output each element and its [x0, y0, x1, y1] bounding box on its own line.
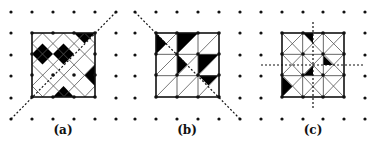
- lattice-dot: [154, 10, 157, 13]
- grid-node: [51, 73, 55, 77]
- grid-node: [30, 52, 34, 56]
- grid-node: [301, 73, 305, 77]
- grid-node: [175, 31, 179, 35]
- filled-tile: [53, 86, 74, 97]
- grid-node: [154, 73, 158, 77]
- lattice-dot: [133, 96, 136, 99]
- lattice-dot: [321, 117, 324, 120]
- grid-node: [72, 31, 76, 35]
- tiling-figure: (a) (b) (c): [0, 0, 376, 143]
- grid-node: [93, 73, 97, 77]
- grid-node: [93, 95, 97, 99]
- grid-node: [301, 52, 305, 56]
- lattice-dot: [321, 10, 324, 13]
- lattice-dot: [301, 10, 304, 13]
- lattice-dot: [217, 117, 220, 120]
- panel-c-label: (c): [304, 123, 323, 137]
- lattice-dot: [259, 117, 262, 120]
- lattice-dot: [280, 10, 283, 13]
- grid-node: [280, 95, 284, 99]
- grid-node: [72, 95, 76, 99]
- grid-node: [321, 73, 325, 77]
- grid-node: [93, 52, 97, 56]
- grid-node: [342, 95, 346, 99]
- lattice-dot: [9, 96, 12, 99]
- grid-node: [280, 52, 284, 56]
- figure-canvas: [0, 0, 376, 143]
- lattice-dot: [259, 74, 262, 77]
- grid-node: [217, 52, 221, 56]
- filled-tile: [156, 33, 167, 54]
- grid-node: [175, 73, 179, 77]
- lattice-dot: [259, 10, 262, 13]
- lattice-dot: [175, 117, 178, 120]
- lattice-dot: [363, 74, 366, 77]
- grid-node: [217, 31, 221, 35]
- lattice-dot: [259, 53, 262, 56]
- grid-node: [196, 73, 200, 77]
- lattice-dot: [114, 53, 117, 56]
- lattice-dot: [175, 10, 178, 13]
- lattice-dot: [238, 31, 241, 34]
- grid-node: [154, 52, 158, 56]
- lattice-dot: [342, 10, 345, 13]
- grid-node: [217, 95, 221, 99]
- grid-node: [342, 52, 346, 56]
- lattice-dot: [72, 117, 75, 120]
- grid-node: [342, 31, 346, 35]
- panel-a: [9, 10, 117, 120]
- lattice-dot: [114, 74, 117, 77]
- lattice-dot: [51, 117, 54, 120]
- panel-b: [133, 10, 241, 120]
- lattice-dot: [133, 74, 136, 77]
- lattice-dot: [363, 96, 366, 99]
- grid-node: [321, 52, 325, 56]
- filled-tile: [282, 76, 293, 97]
- lattice-dot: [238, 10, 241, 13]
- grid-node: [196, 31, 200, 35]
- grid-node: [30, 95, 34, 99]
- lattice-dot: [196, 10, 199, 13]
- lattice-dot: [259, 96, 262, 99]
- lattice-dot: [114, 31, 117, 34]
- lattice-dot: [342, 117, 345, 120]
- diagonal-line: [32, 33, 43, 44]
- lattice-dot: [72, 10, 75, 13]
- lattice-dot: [238, 53, 241, 56]
- lattice-dot: [238, 74, 241, 77]
- lattice-dot: [217, 10, 220, 13]
- lattice-dot: [363, 117, 366, 120]
- grid-node: [342, 73, 346, 77]
- grid-node: [154, 31, 158, 35]
- lattice-dot: [196, 117, 199, 120]
- grid-node: [154, 95, 158, 99]
- lattice-dot: [30, 117, 33, 120]
- lattice-dot: [259, 31, 262, 34]
- lattice-dot: [133, 53, 136, 56]
- lattice-dot: [93, 10, 96, 13]
- grid-node: [30, 73, 34, 77]
- lattice-dot: [238, 96, 241, 99]
- grid-node: [175, 95, 179, 99]
- lattice-dot: [51, 10, 54, 13]
- lattice-dot: [9, 31, 12, 34]
- grid-node: [196, 52, 200, 56]
- grid-node: [196, 95, 200, 99]
- lattice-dot: [363, 31, 366, 34]
- grid-node: [217, 73, 221, 77]
- lattice-dot: [280, 117, 283, 120]
- lattice-dot: [9, 10, 12, 13]
- grid-node: [301, 95, 305, 99]
- lattice-dot: [133, 31, 136, 34]
- lattice-dot: [363, 53, 366, 56]
- lattice-dot: [301, 117, 304, 120]
- lattice-dot: [154, 117, 157, 120]
- panel-c: [259, 10, 366, 120]
- grid-node: [93, 31, 97, 35]
- symmetry-axis-dashed: [11, 12, 116, 119]
- grid-node: [72, 73, 76, 77]
- filled-tile: [74, 33, 95, 44]
- lattice-dot: [9, 53, 12, 56]
- grid-node: [321, 31, 325, 35]
- lattice-dot: [114, 96, 117, 99]
